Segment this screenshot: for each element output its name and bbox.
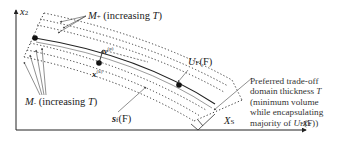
s-f-arg: (F) xyxy=(118,113,131,124)
annotation-line-5-end: (F)) xyxy=(304,118,318,128)
y-axis-label: x2 xyxy=(20,7,28,18)
m-minus-text: (increasing xyxy=(36,96,88,107)
annotation-line-2-text: domain thickness xyxy=(250,86,316,96)
m-plus-leaders xyxy=(58,16,86,33)
x-k-superscript: (k) xyxy=(97,69,103,74)
v-p-label: v(p) xyxy=(104,46,113,56)
s-f-leader xyxy=(118,87,146,112)
annotation-line-5-text: majority of xyxy=(250,118,293,128)
u-f-symbol: U xyxy=(188,56,196,67)
m-plus-label: M+ (increasing T) xyxy=(88,11,162,22)
x-s-subscript: S xyxy=(230,118,234,126)
annotation-line-2: domain thickness T xyxy=(250,86,323,96)
m-plus-symbol: M xyxy=(88,10,97,21)
s-f-label: sf(F) xyxy=(112,114,131,125)
curve-endpoint xyxy=(32,35,38,41)
m-plus-close: ) xyxy=(158,10,162,21)
m-minus-close: ) xyxy=(94,96,98,107)
thickness-leader xyxy=(214,78,252,110)
m-plus-text: (increasing xyxy=(101,10,153,21)
v-p-superscript: (p) xyxy=(108,46,114,51)
x-s-label: XS xyxy=(224,116,234,127)
m-minus-leaders xyxy=(24,48,46,95)
x-k-label: x(k) xyxy=(92,69,102,79)
annotation-line-3: (minimum volume xyxy=(250,97,323,107)
m-minus-symbol: M xyxy=(25,96,34,107)
y-axis-subscript: 2 xyxy=(25,9,29,17)
x-s-bracket xyxy=(191,114,215,130)
annotation-line-4: while encapsulating xyxy=(250,107,323,117)
m-minus-label: M- (increasing T) xyxy=(25,97,97,108)
u-f-arg: (F) xyxy=(200,56,213,67)
annotation-line-1: Preferred trade-off xyxy=(250,76,323,86)
annotation-line-2-var: T xyxy=(316,86,321,96)
offset-bands-lower xyxy=(24,43,206,121)
point-u-f xyxy=(176,82,182,88)
thickness-annotation: Preferred trade-off domain thickness T (… xyxy=(250,76,323,129)
u-f-label: UF(F) xyxy=(188,57,212,68)
annotation-line-5: majority of UF(F)) xyxy=(250,118,323,129)
